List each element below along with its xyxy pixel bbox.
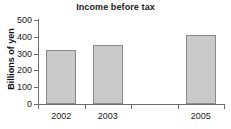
- bar-2002: [46, 50, 76, 104]
- bar-2005: [186, 35, 216, 104]
- x-tick-mark: [85, 105, 86, 109]
- y-tick-label: 100: [8, 83, 32, 92]
- x-tick-mark: [131, 105, 132, 109]
- y-tick-mark: [34, 54, 38, 55]
- x-tick-mark: [178, 105, 179, 109]
- x-tick-label: 2002: [41, 111, 81, 121]
- x-tick-mark: [38, 105, 39, 109]
- bar-chart: Income before tax Billions of yen 010020…: [0, 0, 231, 129]
- x-tick-label: 2005: [181, 111, 221, 121]
- y-tick-label: 200: [8, 66, 32, 75]
- y-tick-label: 300: [8, 50, 32, 59]
- y-tick-mark: [34, 70, 38, 71]
- chart-title: Income before tax: [0, 2, 231, 13]
- y-tick-label: 0: [8, 100, 32, 109]
- bar-2003: [93, 45, 123, 104]
- y-tick-label: 500: [8, 16, 32, 25]
- y-tick-label: 400: [8, 33, 32, 42]
- x-tick-mark: [224, 105, 225, 109]
- x-tick-label: 2003: [88, 111, 128, 121]
- plot-area: [38, 20, 224, 104]
- y-tick-mark: [34, 87, 38, 88]
- y-tick-mark: [34, 37, 38, 38]
- y-tick-mark: [34, 20, 38, 21]
